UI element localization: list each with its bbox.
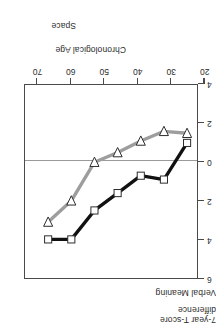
x-axis-label: Chronological Age	[55, 45, 126, 55]
x-axis-tick	[103, 78, 104, 84]
y-axis-tick	[198, 161, 204, 162]
marker-square	[114, 190, 121, 197]
y-axis-tick-label: 4	[207, 80, 212, 89]
y-axis-tick	[198, 278, 204, 279]
y-axis-label-line2: difference	[178, 305, 216, 315]
y-axis-tick-label: 0	[207, 158, 212, 167]
y-axis-tick-label: 6	[207, 275, 212, 284]
x-axis-tick-label: 60	[66, 67, 75, 76]
series-label-space: Space	[51, 21, 76, 31]
x-axis-tick-label: 30	[167, 67, 176, 76]
series-verbal-meaning	[44, 126, 192, 226]
x-axis-tick	[70, 78, 71, 84]
marker-square	[137, 172, 144, 179]
marker-square	[160, 176, 167, 183]
x-axis-tick	[137, 78, 138, 84]
y-axis-tick-label: 2	[207, 119, 212, 128]
x-axis-tick-label: 40	[133, 67, 142, 76]
marker-square	[68, 236, 75, 243]
y-axis-tick-label: 4	[207, 236, 212, 245]
chart-figure: 7-year T-score difference Verbal Meaning…	[0, 0, 222, 331]
x-axis: 203040506070	[24, 76, 198, 84]
x-axis-tick-label: 50	[100, 67, 109, 76]
x-axis-tick	[204, 78, 205, 84]
x-axis-tick	[36, 78, 37, 84]
y-axis-tick-label: 2	[207, 197, 212, 206]
y-axis-tick	[198, 200, 204, 201]
y-axis-tick	[198, 122, 204, 123]
marker-square	[184, 139, 191, 146]
x-axis-tick-label: 70	[33, 67, 42, 76]
y-axis-tick	[198, 239, 204, 240]
plot-area	[24, 84, 198, 279]
rotated-figure: 7-year T-score difference Verbal Meaning…	[0, 0, 222, 331]
series-layer	[25, 85, 197, 278]
marker-square	[91, 207, 98, 214]
y-axis-label-line1: 7-year T-score	[160, 315, 216, 325]
y-axis: 420246	[198, 84, 206, 279]
x-axis-tick-label: 20	[200, 67, 209, 76]
series-label-verbal-meaning: Verbal Meaning	[156, 288, 216, 298]
x-axis-tick	[170, 78, 171, 84]
marker-square	[45, 236, 52, 243]
